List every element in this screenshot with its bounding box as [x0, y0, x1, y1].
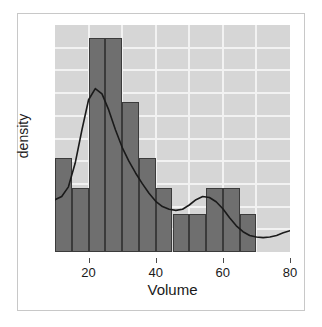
- x-axis-tick: [156, 258, 157, 263]
- x-axis-tick-label: 80: [270, 265, 310, 280]
- y-axis-label: density: [15, 86, 31, 186]
- x-axis-tick: [290, 258, 291, 263]
- x-axis-tick-label: 20: [69, 265, 109, 280]
- x-axis-tick-label: 40: [136, 265, 176, 280]
- x-axis-label: Volume: [55, 281, 290, 298]
- density-histogram-figure: 20406080 Volume density: [0, 0, 322, 327]
- x-axis-tick-label: 60: [203, 265, 243, 280]
- x-axis-tick: [89, 258, 90, 263]
- x-axis-tick: [223, 258, 224, 263]
- plot-panel: [55, 25, 290, 252]
- density-curve: [55, 25, 290, 252]
